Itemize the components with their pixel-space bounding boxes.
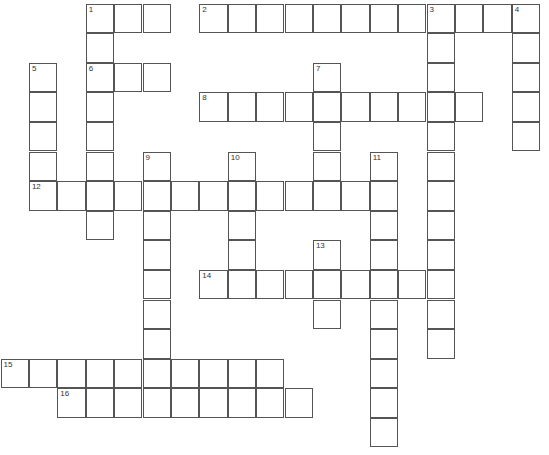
crossword-cell[interactable] <box>29 152 57 182</box>
crossword-cell[interactable]: 13 <box>313 240 341 270</box>
crossword-cell[interactable] <box>114 63 142 93</box>
crossword-cell[interactable] <box>512 92 540 122</box>
crossword-cell[interactable] <box>143 270 171 300</box>
crossword-cell[interactable] <box>370 4 398 34</box>
crossword-cell[interactable] <box>143 4 171 34</box>
crossword-cell[interactable] <box>427 270 455 300</box>
crossword-cell[interactable] <box>512 63 540 93</box>
crossword-cell[interactable] <box>143 63 171 93</box>
crossword-cell[interactable] <box>114 4 142 34</box>
crossword-cell[interactable] <box>228 181 256 211</box>
crossword-cell[interactable] <box>398 4 426 34</box>
crossword-cell[interactable] <box>285 92 313 122</box>
crossword-cell[interactable] <box>199 181 227 211</box>
crossword-cell[interactable] <box>86 122 114 152</box>
crossword-cell[interactable] <box>86 211 114 241</box>
crossword-cell[interactable]: 6 <box>86 63 114 93</box>
crossword-cell[interactable] <box>228 92 256 122</box>
crossword-cell[interactable]: 9 <box>143 152 171 182</box>
crossword-cell[interactable] <box>341 270 369 300</box>
crossword-cell[interactable] <box>114 388 142 418</box>
crossword-cell[interactable] <box>427 92 455 122</box>
crossword-cell[interactable] <box>29 122 57 152</box>
crossword-cell[interactable] <box>143 329 171 359</box>
crossword-cell[interactable]: 3 <box>427 4 455 34</box>
crossword-cell[interactable] <box>313 4 341 34</box>
crossword-cell[interactable] <box>313 270 341 300</box>
crossword-cell[interactable] <box>285 388 313 418</box>
crossword-cell[interactable] <box>285 4 313 34</box>
crossword-cell[interactable]: 2 <box>199 4 227 34</box>
crossword-cell[interactable] <box>143 211 171 241</box>
crossword-cell[interactable] <box>171 359 199 389</box>
crossword-cell[interactable] <box>427 33 455 63</box>
crossword-cell[interactable] <box>370 418 398 448</box>
crossword-cell[interactable] <box>199 359 227 389</box>
crossword-cell[interactable] <box>427 122 455 152</box>
crossword-cell[interactable] <box>114 181 142 211</box>
crossword-cell[interactable] <box>313 181 341 211</box>
crossword-cell[interactable] <box>86 33 114 63</box>
crossword-cell[interactable] <box>256 92 284 122</box>
crossword-cell[interactable]: 15 <box>1 359 29 389</box>
crossword-cell[interactable] <box>370 329 398 359</box>
crossword-cell[interactable] <box>256 181 284 211</box>
crossword-cell[interactable] <box>29 92 57 122</box>
crossword-cell[interactable] <box>483 4 511 34</box>
crossword-cell[interactable] <box>86 359 114 389</box>
crossword-cell[interactable] <box>313 300 341 330</box>
crossword-cell[interactable] <box>313 152 341 182</box>
crossword-cell[interactable] <box>341 92 369 122</box>
crossword-cell[interactable] <box>228 270 256 300</box>
crossword-cell[interactable]: 11 <box>370 152 398 182</box>
crossword-cell[interactable] <box>285 270 313 300</box>
crossword-cell[interactable] <box>370 92 398 122</box>
crossword-cell[interactable]: 5 <box>29 63 57 93</box>
crossword-cell[interactable] <box>256 388 284 418</box>
crossword-cell[interactable] <box>143 300 171 330</box>
crossword-cell[interactable] <box>143 240 171 270</box>
crossword-cell[interactable] <box>427 181 455 211</box>
crossword-cell[interactable] <box>228 388 256 418</box>
crossword-cell[interactable] <box>398 270 426 300</box>
crossword-cell[interactable]: 1 <box>86 4 114 34</box>
crossword-cell[interactable] <box>143 181 171 211</box>
crossword-cell[interactable] <box>455 92 483 122</box>
crossword-cell[interactable] <box>228 4 256 34</box>
crossword-cell[interactable] <box>427 329 455 359</box>
crossword-cell[interactable] <box>370 388 398 418</box>
crossword-cell[interactable] <box>427 152 455 182</box>
crossword-cell[interactable] <box>341 181 369 211</box>
crossword-cell[interactable] <box>114 359 142 389</box>
crossword-cell[interactable] <box>427 300 455 330</box>
crossword-cell[interactable] <box>86 92 114 122</box>
crossword-cell[interactable] <box>199 388 227 418</box>
crossword-cell[interactable] <box>57 359 85 389</box>
crossword-cell[interactable] <box>427 63 455 93</box>
crossword-cell[interactable] <box>512 33 540 63</box>
crossword-cell[interactable] <box>143 359 171 389</box>
crossword-cell[interactable] <box>228 240 256 270</box>
crossword-cell[interactable] <box>256 4 284 34</box>
crossword-cell[interactable]: 8 <box>199 92 227 122</box>
crossword-cell[interactable] <box>398 92 426 122</box>
crossword-cell[interactable] <box>313 122 341 152</box>
crossword-cell[interactable]: 10 <box>228 152 256 182</box>
crossword-cell[interactable] <box>512 122 540 152</box>
crossword-cell[interactable]: 12 <box>29 181 57 211</box>
crossword-cell[interactable] <box>313 92 341 122</box>
crossword-cell[interactable] <box>256 270 284 300</box>
crossword-cell[interactable] <box>57 181 85 211</box>
crossword-cell[interactable] <box>143 388 171 418</box>
crossword-cell[interactable] <box>86 152 114 182</box>
crossword-cell[interactable]: 7 <box>313 63 341 93</box>
crossword-cell[interactable] <box>228 211 256 241</box>
crossword-cell[interactable] <box>455 4 483 34</box>
crossword-cell[interactable] <box>370 181 398 211</box>
crossword-cell[interactable] <box>228 359 256 389</box>
crossword-cell[interactable] <box>341 4 369 34</box>
crossword-cell[interactable] <box>370 359 398 389</box>
crossword-cell[interactable] <box>370 240 398 270</box>
crossword-cell[interactable] <box>370 270 398 300</box>
crossword-cell[interactable] <box>86 388 114 418</box>
